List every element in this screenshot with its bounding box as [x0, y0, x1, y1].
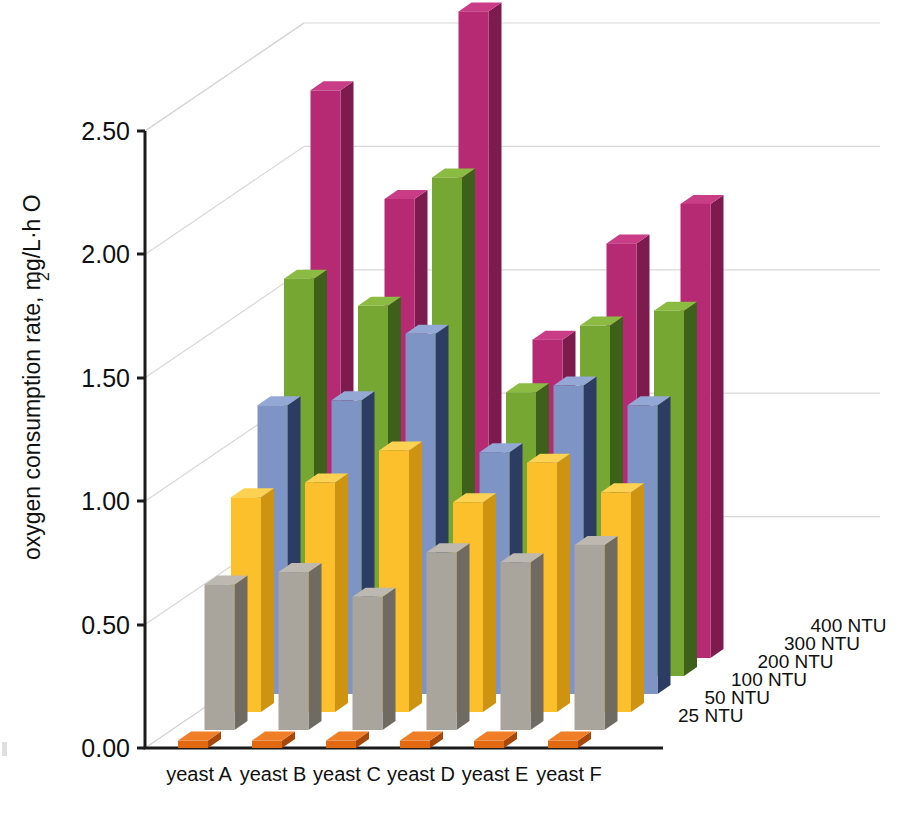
- scan-artifact: [2, 742, 7, 756]
- bar-front-face: [279, 572, 309, 730]
- bar-side-face: [631, 483, 644, 712]
- bar-front-face: [427, 552, 457, 730]
- y-tick-label: 2.00: [81, 240, 130, 268]
- depth-axis-label: 200 NTU: [758, 651, 834, 672]
- bar-side-face: [557, 454, 570, 712]
- depth-axis-label: 300 NTU: [784, 633, 860, 654]
- y-tick-label: 1.00: [81, 487, 130, 515]
- x-axis-category-label: yeast D: [387, 763, 455, 785]
- bar-3d: [279, 563, 322, 730]
- bar-front-face: [252, 741, 282, 748]
- y-tick-label: 0.00: [81, 734, 130, 762]
- bar-side-face: [235, 575, 248, 730]
- bar-3d: [205, 575, 248, 730]
- bar-front-face: [353, 597, 383, 730]
- bar-side-face: [309, 563, 322, 730]
- y-tick-label: 0.50: [81, 611, 130, 639]
- x-axis-category-label: yeast C: [313, 763, 381, 785]
- bar-side-face: [684, 302, 697, 676]
- x-axis-category-label: yeast F: [536, 763, 602, 785]
- bar-front-face: [474, 741, 504, 748]
- x-axis-category-label: yeast B: [240, 763, 307, 785]
- bar-3d: [326, 732, 369, 748]
- y-axis-title: oxygen consumption rate, mg/L·h O 2: [19, 194, 52, 560]
- bar-front-face: [501, 562, 531, 730]
- bar-series-layer: [178, 2, 724, 748]
- oxygen-consumption-3d-bar-chart: oxygen consumption rate, mg/L·h O 2 0.00…: [0, 0, 923, 820]
- bar-3d: [427, 543, 470, 730]
- bar-front-face: [205, 584, 235, 730]
- x-axis-category-label: yeast A: [166, 763, 232, 785]
- bar-side-face: [711, 195, 724, 658]
- bar-front-face: [400, 741, 430, 748]
- bar-3d: [252, 732, 295, 748]
- bar-side-face: [383, 588, 396, 730]
- x-axis-category-label: yeast E: [462, 763, 529, 785]
- bar-3d: [474, 732, 517, 748]
- bar-3d: [400, 732, 443, 748]
- bar-side-face: [483, 493, 496, 712]
- bar-3d: [501, 553, 544, 730]
- gridline-diagonal: [145, 23, 304, 131]
- depth-axis-label: 100 NTU: [731, 669, 807, 690]
- bar-3d: [353, 588, 396, 730]
- bar-3d: [548, 732, 591, 748]
- y-axis-title-text: oxygen consumption rate, mg/L·h O: [19, 194, 45, 560]
- bar-front-face: [178, 741, 208, 748]
- depth-axis-label: 50 NTU: [705, 687, 770, 708]
- x-axis-category-labels: yeast Ayeast Byeast Cyeast Dyeast Eyeast…: [166, 763, 602, 785]
- bar-front-face: [548, 741, 578, 748]
- bar-side-face: [531, 553, 544, 730]
- bar-side-face: [605, 536, 618, 730]
- depth-axis-label: 400 NTU: [811, 615, 887, 636]
- bar-3d: [575, 536, 618, 730]
- y-tick-labels: 0.000.501.001.502.002.50: [81, 117, 130, 762]
- depth-axis-label: 25 NTU: [678, 705, 743, 726]
- gridline-diagonal: [145, 146, 304, 254]
- bar-side-face: [457, 543, 470, 730]
- bar-front-face: [326, 741, 356, 748]
- bar-3d: [178, 732, 221, 748]
- y-tick-label: 2.50: [81, 117, 130, 145]
- bar-front-face: [575, 545, 605, 730]
- bar-side-face: [261, 488, 274, 712]
- bar-side-face: [658, 396, 671, 694]
- y-axis-title-subscript: 2: [35, 272, 52, 281]
- bar-side-face: [409, 441, 422, 712]
- y-tick-label: 1.50: [81, 364, 130, 392]
- gridline-diagonal: [145, 270, 304, 378]
- chart-container: oxygen consumption rate, mg/L·h O 2 0.00…: [0, 0, 923, 820]
- bar-side-face: [335, 473, 348, 712]
